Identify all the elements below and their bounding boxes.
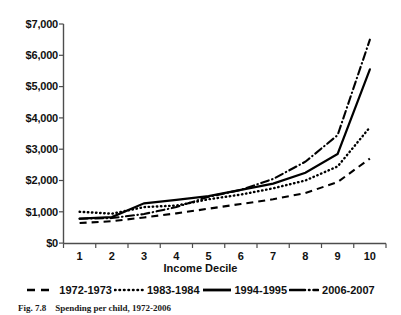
legend-swatch-dotted-icon	[114, 285, 144, 295]
legend-swatch-dashed-icon	[26, 285, 56, 295]
legend-item-1983-1984: 1983-1984	[114, 284, 200, 296]
xtick-label-8: 8	[289, 250, 321, 262]
figure-caption-text: Spending per child, 1972-2006	[55, 303, 171, 313]
figure-caption: Fig. 7.8Spending per child, 1972-2006	[18, 303, 401, 313]
legend-label-1994-1995: 1994-1995	[235, 284, 288, 296]
xtick-label-10: 10	[354, 250, 386, 262]
legend-item-1972-1973: 1972-1973	[26, 284, 112, 296]
x-axis-title: Income Decile	[0, 262, 401, 274]
data-series-group	[80, 40, 370, 223]
xtick-label-3: 3	[128, 250, 160, 262]
xtick-label-1: 1	[64, 250, 96, 262]
xtick-label-6: 6	[225, 250, 257, 262]
figure-container: $7,000 $6,000 $5,000 $4,000 $3,000 $2,00…	[0, 0, 401, 315]
xtick-label-4: 4	[160, 250, 192, 262]
legend-label-2006-2007: 2006-2007	[322, 284, 375, 296]
xtick-label-7: 7	[257, 250, 289, 262]
xtick-label-9: 9	[322, 250, 354, 262]
series-line-1983-1984	[80, 127, 370, 213]
xtick-label-2: 2	[96, 250, 128, 262]
figure-caption-number: Fig. 7.8	[18, 303, 46, 313]
legend-label-1972-1973: 1972-1973	[59, 284, 112, 296]
legend-item-2006-2007: 2006-2007	[289, 284, 375, 296]
legend-swatch-solid-icon	[202, 285, 232, 295]
legend-item-1994-1995: 1994-1995	[202, 284, 288, 296]
xtick-label-5: 5	[193, 250, 225, 262]
legend-swatch-dashdot-icon	[289, 285, 319, 295]
legend-label-1983-1984: 1983-1984	[147, 284, 200, 296]
chart-legend: 1972-1973 1983-1984 1994-1995 2006-2007	[0, 282, 401, 298]
series-line-2006-2007	[80, 40, 370, 219]
